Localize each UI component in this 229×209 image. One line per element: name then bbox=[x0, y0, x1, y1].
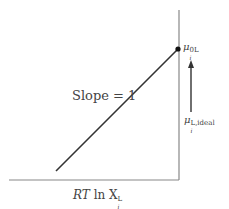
mu-ideal-sup: L,ideal bbox=[191, 120, 215, 127]
mu-0L-sub: i bbox=[190, 54, 199, 61]
slope-label: Slope = 1 bbox=[72, 88, 136, 103]
mu-0L-label: μ0Li bbox=[183, 41, 199, 61]
x-axis-label: RT ln XLi bbox=[73, 188, 122, 209]
diagram-canvas bbox=[0, 0, 229, 209]
x-axis-label-sup: L bbox=[118, 196, 123, 203]
mu-ideal-sub: i bbox=[191, 127, 215, 134]
x-axis-label-middle: ln X bbox=[90, 188, 118, 202]
mu-ideal-label: μL,ideali bbox=[184, 114, 215, 134]
mu-0L-sup: 0L bbox=[190, 47, 199, 54]
slope-line bbox=[56, 49, 178, 171]
x-axis-label-sub: i bbox=[118, 203, 123, 209]
intercept-point bbox=[175, 46, 180, 51]
arrow-up-icon bbox=[188, 60, 194, 68]
x-axis-label-prefix: RT bbox=[73, 188, 90, 202]
